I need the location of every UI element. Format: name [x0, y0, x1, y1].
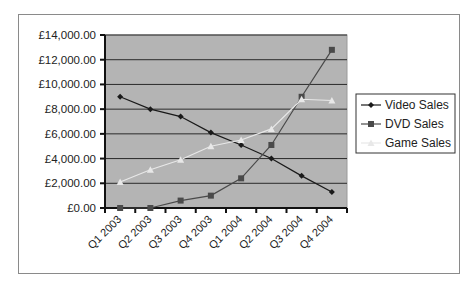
- line-chart: £0.00£2,000.00£4,000.00£6,000.00£8,000.0…: [0, 0, 476, 288]
- y-tick-label: £8,000.00: [45, 103, 96, 115]
- legend: Video SalesDVD SalesGame Sales: [356, 94, 455, 153]
- square-marker: [147, 205, 153, 211]
- y-axis: £0.00£2,000.00£4,000.00£6,000.00£8,000.0…: [38, 29, 105, 214]
- y-tick-label: £0.00: [67, 202, 96, 214]
- square-marker: [329, 47, 335, 53]
- y-tick-label: £10,000.00: [38, 78, 96, 90]
- legend-label: DVD Sales: [385, 117, 444, 131]
- y-tick-label: £14,000.00: [38, 29, 96, 41]
- y-tick-label: £12,000.00: [38, 54, 96, 66]
- square-marker: [368, 121, 374, 127]
- legend-label: Game Sales: [385, 136, 451, 150]
- square-marker: [178, 198, 184, 204]
- legend-label: Video Sales: [385, 98, 449, 112]
- x-tick-label: Q4 2004: [297, 213, 335, 251]
- y-tick-label: £6,000.00: [45, 128, 96, 140]
- square-marker: [208, 193, 214, 199]
- square-marker: [117, 205, 123, 211]
- y-tick-label: £2,000.00: [45, 177, 96, 189]
- square-marker: [238, 175, 244, 181]
- x-axis: Q1 2003Q2 2003Q3 2003Q4 2003Q1 2004Q2 20…: [85, 208, 347, 251]
- plot-area: [105, 35, 347, 208]
- square-marker: [268, 142, 274, 148]
- y-tick-label: £4,000.00: [45, 153, 96, 165]
